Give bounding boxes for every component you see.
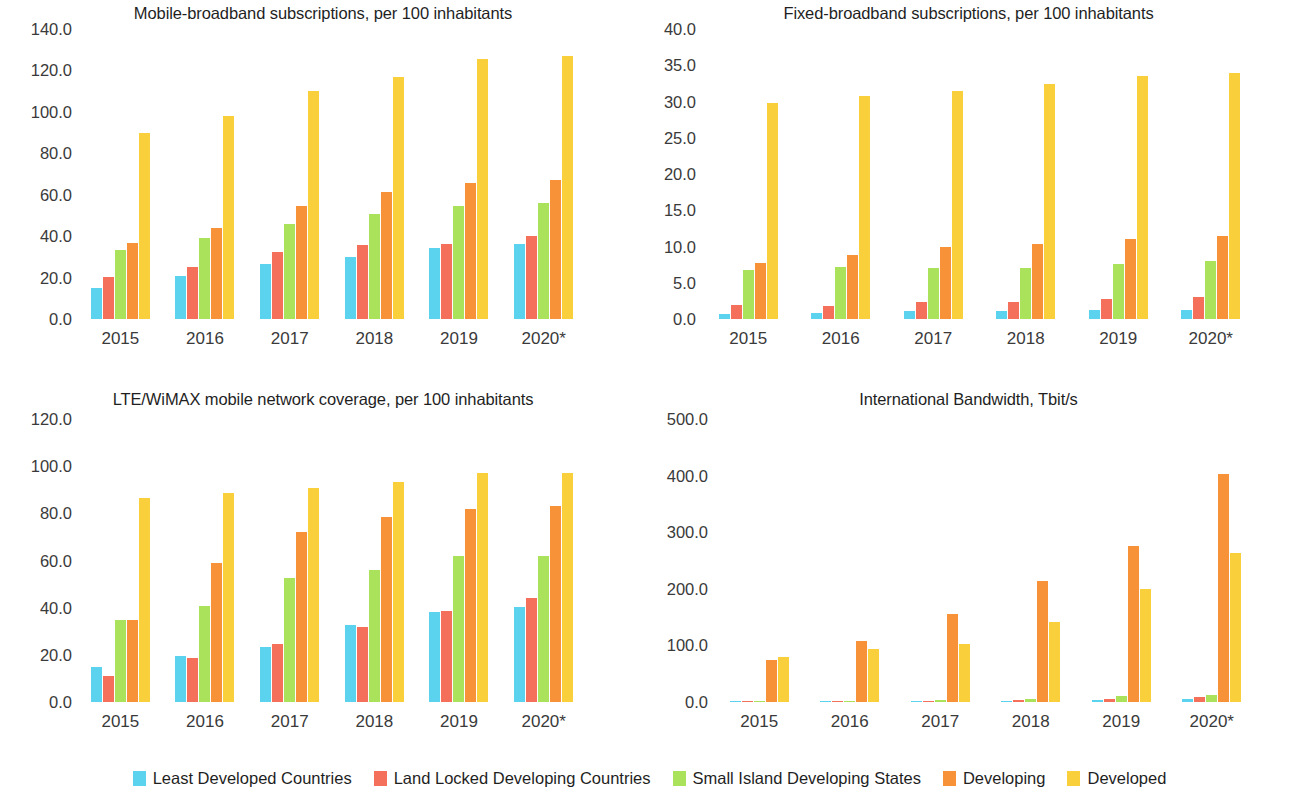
bar-group <box>260 29 319 319</box>
bar <box>928 268 939 319</box>
bar <box>139 133 150 319</box>
bar-group <box>811 29 870 319</box>
bar <box>272 252 283 319</box>
bar <box>868 649 879 702</box>
x-axis-tick-label: 2017 <box>895 713 986 730</box>
bar <box>935 700 946 702</box>
bar <box>767 103 778 319</box>
bar <box>393 482 404 703</box>
bar <box>755 263 766 319</box>
y-axis-tick-label: 140.0 <box>31 21 72 38</box>
bar <box>296 206 307 319</box>
bar <box>187 658 198 702</box>
bar <box>260 264 271 319</box>
x-axis-mobile-broadband: 201520162017201820192020* <box>78 330 586 347</box>
chart-legend: Least Developed CountriesLand Locked Dev… <box>0 752 1289 804</box>
bar <box>284 224 295 319</box>
bar-group <box>719 29 778 319</box>
x-axis-tick-label: 2017 <box>247 330 332 347</box>
x-axis-lte-wimax-coverage: 201520162017201820192020* <box>78 713 586 730</box>
y-axis-tick-label: 30.0 <box>664 93 696 110</box>
bar <box>856 641 867 702</box>
panel-lte-wimax-coverage: LTE/WiMAX mobile network coverage, per 1… <box>0 368 620 752</box>
bar-group <box>514 29 573 319</box>
bar <box>103 277 114 319</box>
legend-label: Small Island Developing States <box>693 770 921 787</box>
bar <box>766 660 777 702</box>
x-axis-tick-label: 2020* <box>1167 713 1258 730</box>
panel-mobile-broadband: Mobile-broadband subscriptions, per 100 … <box>0 0 620 368</box>
bar <box>429 612 440 702</box>
bar <box>91 667 102 702</box>
bar <box>1044 84 1055 319</box>
y-axis-tick-label: 500.0 <box>667 411 708 428</box>
bar <box>381 517 392 702</box>
bar <box>844 701 855 702</box>
x-axis-tick-label: 2018 <box>980 330 1073 347</box>
bar-group <box>260 419 319 702</box>
bar <box>465 509 476 702</box>
bar <box>1104 699 1115 702</box>
bar <box>1013 700 1024 702</box>
bar <box>538 556 549 702</box>
x-axis-tick-label: 2016 <box>805 713 896 730</box>
bar <box>1032 244 1043 319</box>
plot-area-lte-wimax-coverage: 120.0100.080.060.040.020.00.0 <box>0 419 606 702</box>
bar <box>1218 474 1229 702</box>
legend-item[interactable]: Small Island Developing States <box>673 770 921 787</box>
bar <box>1116 696 1127 703</box>
bar <box>345 257 356 319</box>
y-axis-tick-label: 80.0 <box>40 145 72 162</box>
legend-item[interactable]: Developed <box>1067 770 1166 787</box>
bar <box>175 656 186 702</box>
bar <box>429 248 440 319</box>
x-axis-tick-label: 2015 <box>714 713 805 730</box>
bar <box>1206 695 1217 702</box>
x-axis-fixed-broadband: 201520162017201820192020* <box>702 330 1257 347</box>
bar <box>1025 699 1036 702</box>
bar <box>1001 701 1012 702</box>
y-axis-tick-label: 300.0 <box>667 524 708 541</box>
bar <box>719 314 730 319</box>
bar <box>526 598 537 702</box>
bar <box>1049 622 1060 702</box>
bar <box>1137 76 1148 319</box>
bar <box>538 203 549 319</box>
bar <box>904 311 915 319</box>
y-axis-tick-label: 40.0 <box>664 21 696 38</box>
bar <box>1128 546 1139 702</box>
bar <box>996 311 1007 319</box>
bar <box>127 243 138 319</box>
y-axis-tick-label: 10.0 <box>664 238 696 255</box>
x-axis-tick-label: 2016 <box>795 330 888 347</box>
legend-item[interactable]: Developing <box>943 770 1046 787</box>
bar <box>1181 310 1192 319</box>
legend-swatch-icon <box>943 771 956 786</box>
bar <box>465 183 476 319</box>
legend-item[interactable]: Land Locked Developing Countries <box>374 770 651 787</box>
y-axis-tick-label: 0.0 <box>673 311 696 328</box>
chart-grid: Mobile-broadband subscriptions, per 100 … <box>0 0 1289 752</box>
bar <box>1229 73 1240 320</box>
y-axis-tick-label: 40.0 <box>40 599 72 616</box>
x-axis-tick-label: 2020* <box>1165 330 1258 347</box>
bar <box>1140 589 1151 702</box>
bar <box>103 676 114 702</box>
bar <box>550 180 561 319</box>
legend-item[interactable]: Least Developed Countries <box>133 770 352 787</box>
bar <box>345 625 356 702</box>
bar <box>1089 310 1100 319</box>
bar <box>211 228 222 319</box>
x-axis-tick-label: 2018 <box>332 330 417 347</box>
bar <box>526 236 537 319</box>
bar <box>199 606 210 702</box>
bar <box>952 91 963 319</box>
bar <box>477 473 488 702</box>
y-axis-tick-label: 5.0 <box>673 275 696 292</box>
bar <box>1125 239 1136 319</box>
bar <box>1217 236 1228 319</box>
bar <box>272 644 283 702</box>
y-axis-tick-label: 100.0 <box>31 104 72 121</box>
y-axis-tick-label: 120.0 <box>31 62 72 79</box>
bar <box>959 644 970 702</box>
